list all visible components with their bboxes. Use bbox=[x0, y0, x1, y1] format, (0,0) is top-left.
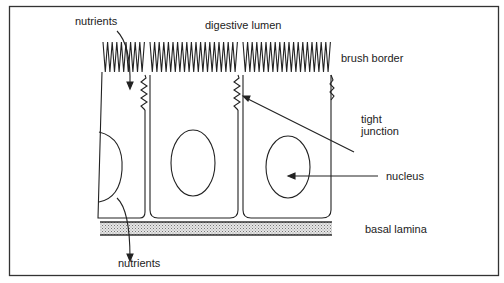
label-nutrients-bottom: nutrients bbox=[118, 257, 161, 269]
tight-junction-2 bbox=[234, 75, 240, 110]
nucleus-3 bbox=[266, 136, 310, 198]
cell-2 bbox=[150, 110, 238, 218]
label-brush-border: brush border bbox=[341, 52, 404, 64]
arrow-nucleus bbox=[288, 173, 378, 179]
label-nucleus: nucleus bbox=[386, 170, 424, 182]
label-tight-junction-1: tight bbox=[361, 113, 382, 125]
tight-junction-1 bbox=[141, 75, 147, 110]
epithelium-diagram: nutrients digestive lumen brush border t… bbox=[0, 0, 504, 283]
brush-border-microvilli bbox=[103, 42, 330, 72]
label-tight-junction-2: junction bbox=[360, 125, 399, 137]
label-basal-lamina: basal lamina bbox=[365, 223, 428, 235]
label-digestive-lumen: digestive lumen bbox=[205, 19, 281, 31]
arrow-tight-junction bbox=[243, 96, 354, 152]
cell-3 bbox=[243, 75, 334, 218]
cell-1 bbox=[98, 72, 145, 218]
nucleus-1 bbox=[99, 132, 122, 202]
basal-lamina bbox=[100, 222, 332, 235]
label-nutrients-top: nutrients bbox=[75, 15, 118, 27]
nucleus-2 bbox=[171, 130, 215, 196]
